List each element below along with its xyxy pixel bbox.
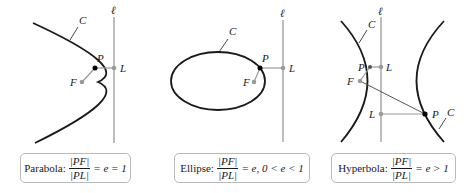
directrix-label: ℓ: [378, 5, 383, 17]
point-p-lower: [422, 111, 427, 116]
curve-right-label: C: [447, 106, 455, 118]
caption-relation: = e > 1: [415, 162, 448, 174]
left-curve-label-pointer: [359, 30, 367, 43]
point-p-label: P: [96, 52, 104, 64]
caption-relation: = e = 1: [93, 162, 126, 174]
point-l-label: L: [119, 62, 126, 74]
hyperbola-caption-box: Hyperbola: |PF| |PL| = e > 1: [331, 153, 456, 183]
fraction-denominator: |PL|: [69, 169, 90, 181]
curve-label: C: [79, 14, 87, 26]
point-p-upper: [368, 65, 372, 69]
point-p-lower-label: P: [431, 108, 439, 120]
ratio-fraction: |PF| |PL|: [217, 156, 239, 181]
hyperbola-panel: C C ℓ P L F L P: [341, 5, 455, 142]
curve-label: C: [229, 25, 237, 37]
point-l: [112, 66, 117, 71]
ratio-fraction: |PF| |PL|: [69, 156, 91, 181]
focus-f: [358, 79, 363, 84]
fraction-numerator: |PF|: [69, 156, 91, 169]
pf-segment: [82, 68, 95, 82]
focus-f-label: F: [69, 76, 77, 88]
fraction-denominator: |PL|: [391, 169, 412, 181]
caption-relation: = e, 0 < e < 1: [241, 162, 303, 174]
focus-f-label: F: [346, 75, 354, 87]
focus-f: [80, 80, 85, 85]
curve-left-label: C: [368, 18, 376, 30]
hyperbola-right-branch: [417, 21, 445, 142]
ellipse-panel: C ℓ P L F: [171, 7, 295, 142]
right-curve-label-pointer: [439, 118, 446, 129]
point-p: [258, 66, 263, 71]
parabola-caption-box: Parabola: |PF| |PL| = e = 1: [20, 153, 131, 183]
directrix-label: ℓ: [280, 7, 285, 19]
point-l: [281, 66, 286, 71]
parabola-panel: C ℓ P L F: [33, 4, 126, 143]
curve-label-pointer: [70, 27, 78, 40]
point-p-upper-label: P: [357, 61, 365, 73]
focus-f: [252, 80, 257, 85]
caption-name: Parabola:: [24, 162, 66, 174]
point-l-label: L: [288, 62, 295, 74]
point-p-label: P: [261, 52, 269, 64]
directrix-label: ℓ: [111, 4, 116, 16]
fraction-numerator: |PF|: [391, 156, 413, 169]
point-l-lower-label: L: [368, 108, 375, 120]
hyperbola-left-branch: [341, 21, 368, 142]
caption-name: Hyperbola:: [338, 162, 387, 174]
point-l-upper: [379, 65, 384, 70]
ellipse-caption-box: Ellipse: |PF| |PL| = e, 0 < e < 1: [174, 153, 310, 183]
ratio-fraction: |PF| |PL|: [391, 156, 413, 181]
curve-label-pointer: [219, 39, 228, 52]
focus-f-label: F: [242, 76, 250, 88]
caption-name: Ellipse:: [180, 162, 214, 174]
ellipse-curve: [171, 52, 265, 110]
point-l-upper-label: L: [385, 61, 392, 73]
point-p: [93, 66, 98, 71]
fraction-denominator: |PL|: [217, 169, 238, 181]
point-l-lower: [379, 112, 384, 117]
fraction-numerator: |PF|: [217, 156, 239, 169]
